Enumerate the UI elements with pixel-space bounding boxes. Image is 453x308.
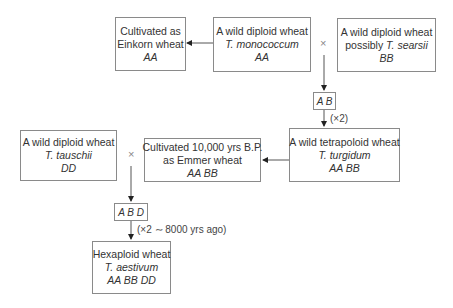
searsii-box: A wild diploid wheat possibly T. searsii… <box>337 18 436 72</box>
turgidum-genome: AA BB <box>329 162 360 175</box>
doubling-label-1: (×2) <box>330 113 348 124</box>
tauschii-box: A wild diploid wheat T. tauschii DD <box>20 130 117 181</box>
ab-hybrid-genome: A B <box>317 95 333 108</box>
emmer-line1: Cultivated 10,000 yrs B.P. <box>142 141 262 154</box>
tauschii-species: T. tauschii <box>45 149 92 162</box>
monococcum-box: A wild diploid wheat T. monococcum AA <box>213 17 311 72</box>
cross-symbol-1: × <box>320 37 326 49</box>
abd-hybrid-box: A B D <box>114 203 148 221</box>
searsii-species: T. searsii <box>386 39 428 51</box>
searsii-line1: A wild diploid wheat <box>341 26 433 39</box>
monococcum-species: T. monococcum <box>225 38 299 51</box>
aestivum-genome: AA BB DD <box>107 274 156 287</box>
monococcum-genome: AA <box>255 51 269 64</box>
emmer-line2: as Emmer wheat <box>163 154 242 167</box>
einkorn-line2: Einkorn wheat <box>117 38 184 51</box>
cross-symbol-2: × <box>128 148 134 160</box>
aestivum-box: Hexaploid wheat T. aestivum AA BB DD <box>92 241 171 294</box>
ab-hybrid-box: A B <box>313 92 336 110</box>
turgidum-box: A wild tetrapoloid wheat T. turgidum AA … <box>289 128 400 182</box>
tauschii-line1: A wild diploid wheat <box>23 136 115 149</box>
turgidum-species: T. turgidum <box>318 149 370 162</box>
monococcum-line1: A wild diploid wheat <box>216 25 308 38</box>
emmer-genome: AA BB <box>187 167 218 180</box>
tauschii-genome: DD <box>61 162 76 175</box>
turgidum-line1: A wild tetrapoloid wheat <box>289 136 399 149</box>
searsii-prefix: possibly <box>345 39 386 51</box>
einkorn-genome: AA <box>143 51 157 64</box>
aestivum-species: T. aestivum <box>105 261 158 274</box>
einkorn-line1: Cultivated as <box>120 25 181 38</box>
searsii-line2: possibly T. searsii <box>345 39 428 52</box>
aestivum-line1: Hexaploid wheat <box>93 248 171 261</box>
doubling-label-2: (×2 ∼ 8000 yrs ago) <box>137 224 226 235</box>
emmer-box: Cultivated 10,000 yrs B.P. as Emmer whea… <box>144 138 261 182</box>
einkorn-box: Cultivated as Einkorn wheat AA <box>115 17 186 71</box>
searsii-genome: BB <box>379 52 393 65</box>
abd-hybrid-genome: A B D <box>118 206 144 219</box>
